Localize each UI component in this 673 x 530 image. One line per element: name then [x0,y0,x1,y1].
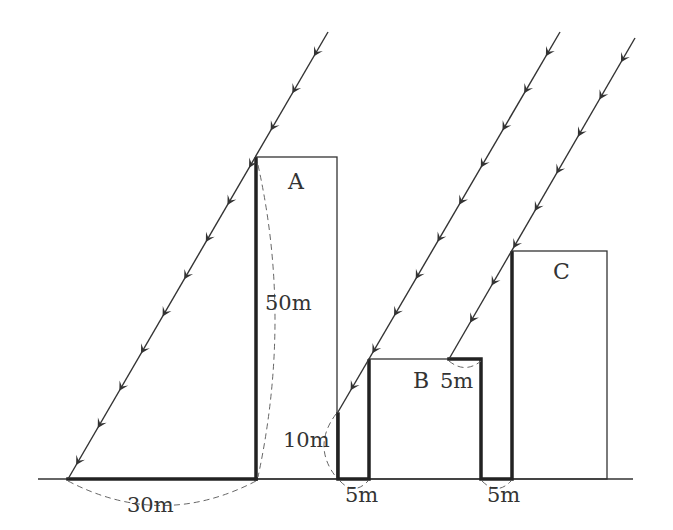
building-c [512,251,607,479]
label-wall-shadow: 10m [283,428,330,452]
label-gap-bc: 5m [487,483,520,507]
label-a-height: 50m [265,291,312,315]
label-gap-ab: 5m [345,483,378,507]
label-b-roof-shadow: 5m [440,369,473,393]
label-a-shadow: 30m [127,493,174,517]
building-a-label: A [287,169,305,194]
dashed-dimension-arcs [68,165,511,506]
building-c-label: C [553,259,570,284]
sunlight-shadow-diagram: A B C 50m 30m 10m 5m 5m 5m [0,0,673,530]
rays [68,32,635,479]
arrowhead-icons [76,46,630,465]
building-b-label: B [413,368,429,393]
ray-1 [68,32,328,479]
